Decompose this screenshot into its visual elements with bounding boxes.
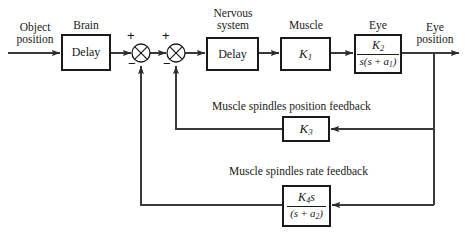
block-content-position-feedback-gain: K3 [283, 117, 329, 141]
output-label-line2: position [404, 34, 466, 46]
block-title-nervous-system: Nervous system [200, 8, 266, 32]
output-label: Eye position [404, 22, 466, 46]
muscle-gain-symbol: K [299, 46, 308, 61]
muscle-gain-subscript: 1 [308, 52, 312, 62]
block-content-muscle: K1 [281, 38, 330, 70]
wire-k3-to-summer2 [176, 66, 283, 129]
summer1-feedback-sign: − [128, 57, 136, 71]
summer2-input-sign: + [162, 29, 170, 43]
block-title-nervous-system-line2: system [200, 20, 266, 32]
summer2-feedback-sign: − [163, 57, 171, 71]
eye-denominator: s(s + a1) [357, 54, 400, 69]
block-content-nervous-system-text: Delay [218, 47, 247, 62]
block-title-brain: Brain [56, 20, 116, 32]
block-diagram: Object position Eye position Brain Nervo… [0, 0, 467, 236]
block-content-brain: Delay [62, 35, 110, 70]
summer1-input-sign: + [127, 29, 135, 43]
block-content-brain-text: Delay [72, 45, 101, 60]
block-content-eye: K2 s(s + a1) [355, 35, 401, 73]
position-feedback-label: Muscle spindles position feedback [212, 101, 371, 113]
eye-transfer-function: K2 s(s + a1) [357, 39, 400, 69]
k3-gain: K3 [299, 121, 312, 137]
k4s-transfer-function: K4s (s + a2) [287, 191, 326, 221]
block-content-nervous-system: Delay [207, 38, 258, 70]
k4s-denominator: (s + a2) [287, 206, 326, 221]
k3-gain-symbol: K [299, 121, 308, 136]
k3-gain-subscript: 3 [308, 127, 312, 137]
k4s-numerator: K4s [295, 191, 318, 207]
input-label-line2: position [4, 34, 66, 46]
wire-k4s-to-summer1 [141, 66, 283, 205]
eye-numerator: K2 [369, 39, 387, 55]
block-content-muscle-gain: K1 [299, 46, 312, 62]
block-content-rate-feedback-gain: K4s (s + a2) [283, 186, 330, 226]
rate-feedback-label: Muscle spindles rate feedback [229, 166, 368, 178]
block-title-eye: Eye [350, 20, 406, 32]
block-title-muscle: Muscle [275, 20, 337, 32]
